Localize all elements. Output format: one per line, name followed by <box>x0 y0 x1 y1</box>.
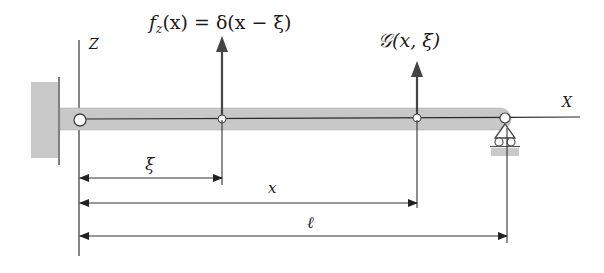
roller-right-icon <box>507 138 515 146</box>
left-hinge-icon <box>74 114 86 126</box>
x-axis-label: X <box>561 94 573 110</box>
wall-block <box>31 82 58 158</box>
greens-function-marker <box>411 61 423 114</box>
z-axis-label: Z <box>88 36 99 52</box>
beam <box>60 108 580 130</box>
right-hinge-icon <box>500 113 510 123</box>
greens-label: 𝒢(x, ξ) <box>378 29 440 51</box>
x-dimension-label: x <box>268 179 277 197</box>
point-load <box>216 36 228 115</box>
greens-arrow-icon <box>411 61 423 77</box>
roller-base <box>491 148 519 156</box>
load-label: fz(x) = δ(x − ξ) <box>147 11 291 36</box>
load-arrow-icon <box>216 36 228 52</box>
length-dimension-label: ℓ <box>307 213 314 232</box>
roller-left-icon <box>495 138 503 146</box>
xi-dimension-label: ξ <box>145 154 156 174</box>
beam-diagram: Z X fz(x) = δ(x − ξ) 𝒢(x, ξ) ξ x ℓ <box>0 0 604 273</box>
wall-support <box>31 77 59 165</box>
